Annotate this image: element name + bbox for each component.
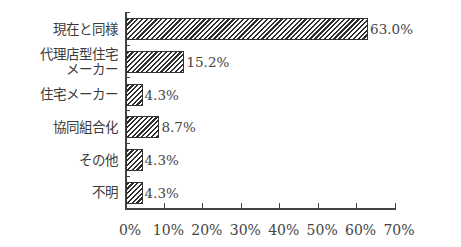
bar [126, 149, 143, 171]
x-tick [241, 203, 242, 208]
horizontal-bar-chart: 0%10%20%30%40%50%60%70% 63.0%現在と同様15.2%代… [0, 0, 461, 247]
category-label-line: その他 [79, 153, 118, 168]
value-label: 4.3% [145, 84, 179, 106]
y-tick [125, 77, 130, 78]
bar [126, 84, 143, 106]
category-label: 協同組合化 [53, 120, 118, 135]
category-label-line: 不明 [92, 185, 118, 200]
category-label-line: 協同組合化 [53, 120, 118, 135]
y-tick [125, 110, 130, 111]
bar [126, 116, 159, 138]
category-label: 現在と同様 [53, 22, 118, 37]
x-tick [202, 203, 203, 208]
y-tick [125, 208, 130, 209]
value-label: 4.3% [145, 182, 179, 204]
x-tick-label: 10% [153, 222, 184, 238]
x-tick-label: 60% [345, 222, 376, 238]
y-tick [125, 45, 130, 46]
x-tick [356, 203, 357, 208]
category-label: 不明 [92, 185, 118, 200]
y-tick [125, 12, 130, 13]
x-tick [395, 203, 396, 208]
category-label-line: 代理店型住宅 [40, 47, 118, 62]
bar [126, 182, 143, 204]
value-label: 4.3% [145, 149, 179, 171]
category-label: 代理店型住宅メーカー [40, 47, 118, 77]
x-tick-label: 50% [307, 222, 338, 238]
x-tick-label: 20% [191, 222, 222, 238]
value-label: 63.0% [370, 18, 413, 40]
x-tick-label: 0% [119, 222, 141, 238]
bar [126, 51, 184, 73]
category-label-line: 現在と同様 [53, 22, 118, 37]
x-tick [279, 203, 280, 208]
value-label: 8.7% [161, 116, 195, 138]
category-label-line: 住宅メーカー [40, 87, 118, 102]
category-label-line: メーカー [40, 62, 118, 77]
y-tick [125, 176, 130, 177]
x-axis [125, 208, 396, 210]
value-label: 15.2% [186, 51, 229, 73]
category-label: 住宅メーカー [40, 87, 118, 102]
category-label: その他 [79, 153, 118, 168]
x-tick-label: 40% [268, 222, 299, 238]
bar [126, 18, 368, 40]
y-tick [125, 143, 130, 144]
x-tick-label: 70% [383, 222, 414, 238]
x-tick [318, 203, 319, 208]
x-tick-label: 30% [230, 222, 261, 238]
